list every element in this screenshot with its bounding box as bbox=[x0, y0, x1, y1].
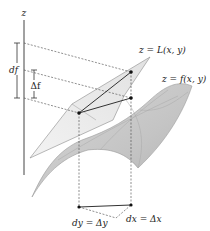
surface-label: z = f(x, y) bbox=[161, 74, 207, 84]
dashed-line-L-value bbox=[24, 43, 131, 72]
dx-label: dx = Δx bbox=[126, 214, 162, 224]
point-domain-right bbox=[129, 203, 132, 206]
z-axis-label: z bbox=[21, 8, 27, 18]
tangent-plane-label: z = L(x, y) bbox=[138, 45, 186, 55]
delta-f-label: Δf bbox=[31, 81, 41, 91]
dy-label: dy = Δy bbox=[72, 218, 109, 228]
point-base bbox=[77, 111, 81, 115]
domain-segment bbox=[79, 205, 131, 207]
dy-dashed bbox=[79, 207, 116, 218]
point-on-plane bbox=[129, 70, 133, 74]
point-domain-left bbox=[77, 205, 80, 208]
point-on-surface bbox=[129, 96, 133, 100]
linear-approximation-figure: z df Δf z = L(x, y) z = f(x, y) dy = Δy … bbox=[0, 0, 210, 231]
